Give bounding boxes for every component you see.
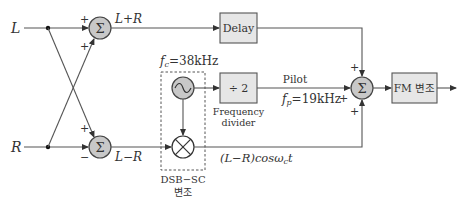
fm-label: FM 변조 <box>394 82 435 94</box>
mod-output-label: (L−R)cosωct <box>220 151 293 166</box>
sign-plus: + <box>80 40 89 53</box>
label-l-minus-r: L−R <box>114 150 142 164</box>
fc-label: fc=38kHz <box>159 54 218 69</box>
label-l-plus-r: L+R <box>114 12 142 26</box>
sigma-icon: Σ <box>95 21 104 36</box>
sign-plus: + <box>339 92 348 105</box>
wire-delay-to-sum-out <box>257 28 362 76</box>
sign-plus: + <box>350 105 359 118</box>
divider-caption-1: Frequency <box>213 106 265 117</box>
sign-plus: + <box>350 61 359 74</box>
input-label-r: R <box>10 139 22 155</box>
dsb-sc-caption-2: 변조 <box>174 187 192 198</box>
divider-label: ÷ 2 <box>229 82 249 95</box>
sigma-icon: Σ <box>95 140 104 155</box>
stereo-fm-block-diagram: L R Σ + + L+R Σ + − L−R Delay fc=38kHz ÷… <box>0 0 463 203</box>
dsb-sc-caption-1: DSB−SC <box>160 174 205 185</box>
delay-label: Delay <box>223 22 255 35</box>
divider-caption-2: divider <box>222 117 256 128</box>
sign-plus: + <box>80 13 89 26</box>
sign-plus: + <box>80 122 89 135</box>
pilot-label: Pilot <box>283 73 308 85</box>
sign-minus: − <box>80 151 89 164</box>
input-label-l: L <box>10 20 20 36</box>
sigma-icon: Σ <box>357 81 366 96</box>
fp-label: fp=19kHz <box>281 92 341 107</box>
